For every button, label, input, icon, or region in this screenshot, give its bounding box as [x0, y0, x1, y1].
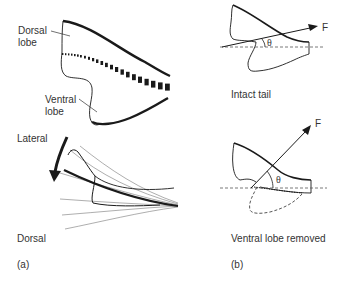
panel-a-label: (a) [17, 259, 29, 270]
intact-force-line [222, 28, 310, 47]
removed-angle-label: θ [276, 174, 281, 185]
panel-b-removed [220, 125, 327, 213]
intact-angle-arc [262, 39, 265, 47]
lateral-arrow-head [49, 170, 61, 182]
panel-a-sweep [49, 137, 178, 229]
removed-caption: Ventral lobe removed [231, 233, 326, 244]
lateral-arrow-shaft [55, 137, 67, 172]
removed-outline [233, 143, 311, 193]
leading-edge [61, 21, 100, 125]
heterocercal-tail-diagram: Dorsal lobe Ventral lobe Lateral Dorsal … [0, 0, 343, 285]
dorsal-label: Dorsal [17, 233, 46, 244]
dorsal-lobe-label-1: Dorsal [18, 25, 47, 36]
removed-ventral-lobe-outline [250, 187, 302, 213]
panel-b-label: (b) [231, 259, 243, 270]
removed-force-label: F [315, 118, 321, 129]
vertebral-column [62, 53, 170, 91]
ventral-lobe-label-1: Ventral [45, 94, 76, 105]
ventral-lobe-leader [79, 99, 97, 112]
dorsal-lobe-leader [51, 31, 70, 36]
removed-dorsal-edge [234, 143, 311, 180]
intact-caption: Intact tail [231, 89, 271, 100]
intact-force-label: F [322, 22, 328, 33]
lateral-label: Lateral [17, 133, 48, 144]
ventral-edge [92, 98, 168, 124]
ventral-lobe-label-2: lobe [45, 106, 64, 117]
dorsal-lobe-label-2: lobe [18, 37, 37, 48]
intact-angle-label: θ [267, 37, 272, 48]
panel-b-intact [220, 5, 325, 71]
panel-a-tail-anatomy [51, 21, 170, 125]
sweep-lines [60, 146, 178, 229]
removed-angle-arc [267, 171, 273, 188]
intact-force-arrowhead [308, 24, 318, 31]
